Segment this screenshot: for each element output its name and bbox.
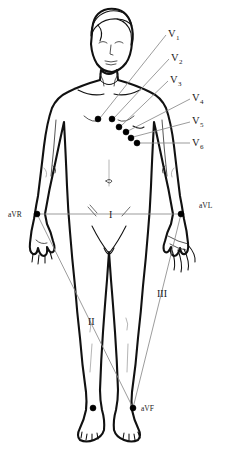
electrode-dot-v1 [95, 116, 101, 122]
body-diagram-svg: V 1 V 2 V 3 V 4 V 5 V 6 aVR aVL aVF I II… [0, 0, 228, 451]
label-v2: V [171, 52, 179, 63]
label-v3-sub: 3 [178, 80, 182, 88]
electrode-dot-v4 [123, 129, 129, 135]
label-v4: V [192, 92, 200, 103]
electrode-dot-v5 [128, 135, 134, 141]
electrode-dot-avf [130, 405, 136, 411]
precordial-labels: V 1 V 2 V 3 V 4 V 5 V 6 [168, 28, 204, 151]
label-lead-iii: III [157, 288, 167, 299]
electrode-dot-v2 [109, 116, 115, 122]
label-lead-ii: II [88, 316, 95, 327]
label-v3: V [170, 74, 178, 85]
label-v6-sub: 6 [200, 143, 204, 151]
label-avf: aVF [141, 404, 154, 413]
label-v5: V [192, 115, 200, 126]
label-v6: V [192, 137, 200, 148]
electrode-dot-avr [34, 211, 40, 217]
label-lead-i: I [109, 209, 112, 220]
electrode-dot-right-ankle [90, 405, 96, 411]
label-avr: aVR [8, 210, 22, 219]
label-v4-sub: 4 [200, 98, 204, 106]
electrode-dot-v6 [134, 140, 140, 146]
label-v1: V [168, 28, 176, 39]
electrode-dot-avl [178, 211, 184, 217]
label-avl: aVL [199, 201, 213, 210]
label-v1-sub: 1 [176, 34, 180, 42]
ecg-lead-placement-diagram: V 1 V 2 V 3 V 4 V 5 V 6 aVR aVL aVF I II… [0, 0, 228, 451]
electrode-dot-v3 [116, 124, 122, 130]
label-v5-sub: 5 [200, 121, 204, 129]
label-v2-sub: 2 [179, 58, 183, 66]
